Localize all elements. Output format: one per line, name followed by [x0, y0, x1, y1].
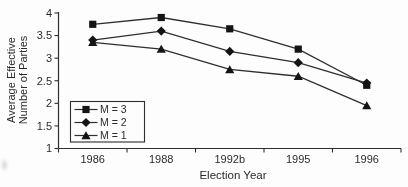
y-tick-label: 1.5: [37, 120, 52, 132]
data-point-diamond: [157, 26, 166, 35]
x-axis-title: Election Year: [199, 169, 266, 181]
legend-label: M = 3: [100, 103, 127, 115]
x-category-label: 1988: [149, 153, 173, 165]
y-tick-label: 2.5: [37, 75, 52, 87]
y-tick-label: 3: [46, 52, 52, 64]
x-category-label: 1986: [81, 153, 105, 165]
x-category-label: 1995: [286, 153, 310, 165]
data-point-diamond: [294, 58, 303, 67]
y-tick-label: 2: [46, 97, 52, 109]
scan-artifact: [1, 158, 8, 172]
y-tick-label: 1: [46, 142, 52, 154]
data-point-diamond: [225, 47, 234, 56]
data-point-square: [89, 21, 96, 28]
legend-square-marker: [82, 106, 89, 113]
x-category-label: 1996: [355, 153, 379, 165]
x-category-label: 1992b: [214, 153, 245, 165]
legend-label: M = 1: [100, 129, 127, 141]
legend-label: M = 2: [100, 116, 127, 128]
data-point-square: [158, 14, 165, 21]
data-point-triangle: [362, 101, 371, 109]
y-tick-label: 4: [46, 7, 52, 19]
line-chart-figure: Average Effective Number of Parties 11.5…: [0, 0, 408, 187]
data-point-square: [295, 46, 302, 53]
y-tick-label: 3.5: [37, 29, 52, 41]
line-chart-canvas: 11.522.533.54198619881992b19951996M = 3M…: [0, 0, 408, 187]
data-point-square: [226, 25, 233, 32]
series-line-diamond: [93, 31, 367, 83]
